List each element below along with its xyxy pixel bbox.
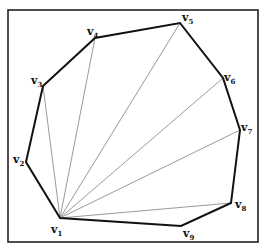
vertex-label-v4: v4 — [86, 25, 98, 40]
vertex-subscript: 1 — [57, 229, 62, 238]
vertex-subscript: 9 — [189, 233, 194, 242]
vertex-subscript: 8 — [241, 204, 246, 213]
vertex-label-v9: v9 — [182, 227, 194, 242]
polygon-outline — [26, 23, 240, 226]
vertex-subscript: 6 — [230, 77, 235, 86]
vertex-subscript: 2 — [19, 159, 24, 168]
vertex-label-v8: v8 — [234, 198, 246, 213]
vertex-label-v7: v7 — [240, 121, 252, 136]
diagonal-v1-v3 — [43, 86, 60, 218]
vertex-label-v6: v6 — [223, 71, 235, 86]
vertex-label-v3: v3 — [30, 74, 42, 89]
diagonals-group — [43, 23, 240, 218]
vertex-label-v1: v1 — [50, 223, 62, 238]
vertex-subscript: 7 — [247, 127, 252, 136]
vertex-subscript: 4 — [93, 31, 98, 40]
vertex-subscript: 5 — [188, 17, 193, 26]
vertex-label-v5: v5 — [181, 11, 193, 26]
diagonal-v1-v6 — [60, 78, 223, 218]
vertex-label-v2: v2 — [12, 153, 24, 168]
fan-triangulation-diagram: v1v2v3v4v5v6v7v8v9 — [0, 0, 264, 250]
vertex-subscript: 3 — [37, 80, 42, 89]
